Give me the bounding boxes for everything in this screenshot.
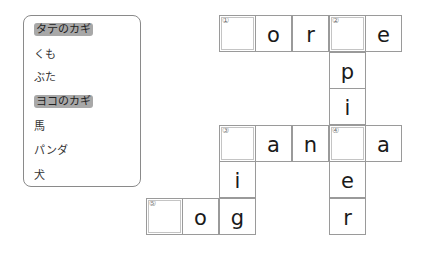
cell-letter: i bbox=[220, 162, 255, 197]
answer-cell[interactable]: ⑤ bbox=[146, 198, 183, 235]
letter-cell: a bbox=[365, 125, 402, 162]
letter-cell: a bbox=[255, 125, 292, 162]
letter-cell: r bbox=[329, 198, 366, 235]
answer-cell[interactable]: ① bbox=[219, 15, 256, 52]
vertical-clues-header: タテのカギ bbox=[34, 23, 93, 37]
clue-number: ③ bbox=[222, 126, 229, 135]
cell-letter: e bbox=[366, 16, 401, 51]
cell-letter: a bbox=[256, 126, 291, 161]
cell-letter bbox=[220, 126, 255, 161]
letter-cell: i bbox=[219, 161, 256, 198]
letter-cell: e bbox=[365, 15, 402, 52]
clue-number: ② bbox=[332, 16, 339, 25]
letter-cell: g bbox=[219, 198, 256, 235]
cell-letter: r bbox=[330, 199, 365, 234]
vertical-clue-1: くも bbox=[34, 48, 56, 62]
cell-letter: o bbox=[183, 199, 218, 234]
cell-letter: i bbox=[330, 89, 365, 124]
answer-cell[interactable]: ② bbox=[329, 15, 366, 52]
clue-number: ① bbox=[222, 16, 229, 25]
vertical-clues-header-label: タテのカギ bbox=[34, 23, 93, 36]
clue-number: ⑤ bbox=[149, 199, 156, 208]
cell-letter: p bbox=[330, 53, 365, 88]
cell-letter bbox=[147, 199, 182, 234]
cell-letter: r bbox=[293, 16, 328, 51]
letter-cell: o bbox=[255, 15, 292, 52]
answer-cell[interactable]: ④ bbox=[329, 125, 366, 162]
cell-letter bbox=[330, 16, 365, 51]
letter-cell: o bbox=[182, 198, 219, 235]
letter-cell: r bbox=[292, 15, 329, 52]
horizontal-clue-3: 犬 bbox=[34, 169, 45, 183]
cell-letter bbox=[220, 16, 255, 51]
horizontal-clues-header: ヨコのカギ bbox=[34, 95, 93, 109]
horizontal-clue-1: 馬 bbox=[34, 120, 45, 134]
cell-letter bbox=[330, 126, 365, 161]
clue-number: ④ bbox=[332, 126, 339, 135]
horizontal-clues-header-label: ヨコのカギ bbox=[34, 95, 93, 108]
cell-letter: a bbox=[366, 126, 401, 161]
cell-letter: g bbox=[220, 199, 255, 234]
cell-letter: e bbox=[330, 162, 365, 197]
vertical-clue-2: ぶた bbox=[34, 71, 56, 85]
letter-cell: n bbox=[292, 125, 329, 162]
letter-cell: e bbox=[329, 161, 366, 198]
letter-cell: p bbox=[329, 52, 366, 89]
cell-letter: n bbox=[293, 126, 328, 161]
horizontal-clue-2: パンダ bbox=[34, 144, 68, 158]
clue-box: タテのカギ くも ぶた ヨコのカギ 馬 パンダ 犬 bbox=[23, 15, 141, 187]
answer-cell[interactable]: ③ bbox=[219, 125, 256, 162]
letter-cell: i bbox=[329, 88, 366, 125]
cell-letter: o bbox=[256, 16, 291, 51]
